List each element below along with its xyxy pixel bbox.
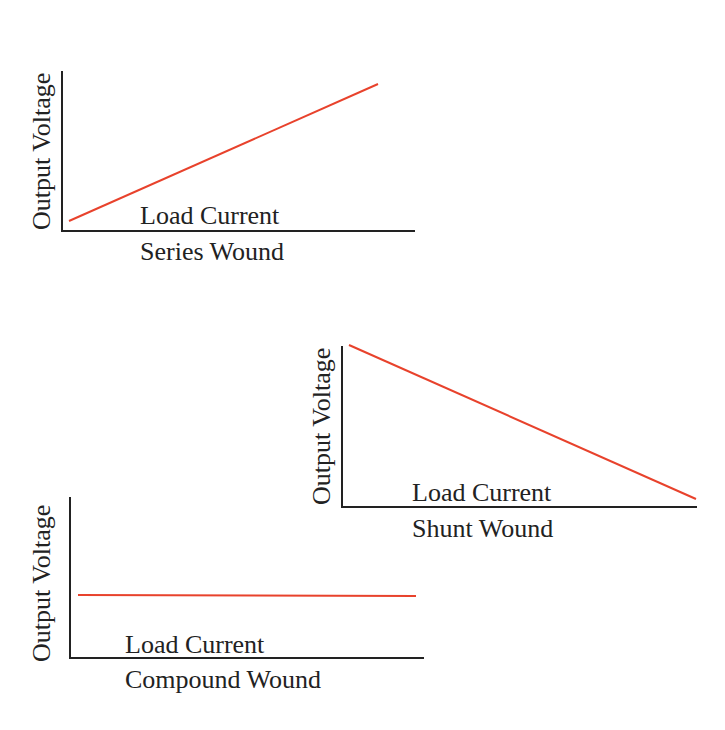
- shunt-wound-chart: Output Voltage Load Current Shunt Wound: [307, 345, 697, 543]
- compound-wound-chart: Output Voltage Load Current Compound Wou…: [27, 497, 424, 694]
- series-wound-chart: Output Voltage Load Current Series Wound: [27, 71, 415, 266]
- x-axis-label: Load Current: [125, 630, 265, 659]
- x-axis-label: Load Current: [412, 478, 552, 507]
- chart-title: Series Wound: [140, 237, 284, 266]
- y-axis-label: Output Voltage: [27, 73, 56, 230]
- chart-title: Compound Wound: [125, 665, 321, 694]
- shunt-line: [349, 345, 696, 499]
- x-axis-label: Load Current: [140, 201, 280, 230]
- y-axis-label: Output Voltage: [27, 505, 56, 662]
- y-axis-label: Output Voltage: [307, 348, 336, 505]
- charts-canvas: Output Voltage Load Current Series Wound…: [0, 0, 725, 730]
- compound-line: [78, 595, 416, 596]
- chart-title: Shunt Wound: [412, 514, 553, 543]
